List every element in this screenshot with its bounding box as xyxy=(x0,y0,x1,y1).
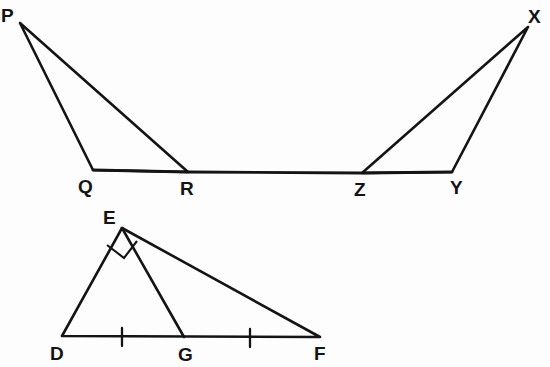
vertex-label-F: F xyxy=(314,343,326,364)
vertex-label-P: P xyxy=(1,5,14,26)
vertex-label-D: D xyxy=(50,343,64,364)
vertex-label-Y: Y xyxy=(450,177,463,198)
geometry-canvas: P Q R Z Y X E D G F xyxy=(0,0,550,367)
vertex-label-X: X xyxy=(528,6,541,27)
vertex-label-R: R xyxy=(180,178,194,199)
vertex-label-G: G xyxy=(178,344,193,365)
vertex-label-E: E xyxy=(103,207,116,228)
vertex-label-Z: Z xyxy=(354,179,366,200)
geometry-diagram: P Q R Z Y X E D G F xyxy=(0,0,550,367)
vertex-label-Q: Q xyxy=(78,176,93,197)
